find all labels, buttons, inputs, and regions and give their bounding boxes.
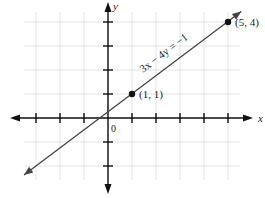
equation-label: 3x − 4y = −1 [137, 31, 190, 75]
y-axis-down-arrow-icon [105, 184, 112, 194]
point-marker [225, 19, 231, 25]
y-axis-label: y [112, 0, 118, 12]
coordinate-plane: (1, 1)(5, 4) 3x − 4y = −1 x y 0 [0, 0, 265, 198]
x-axis-label: x [257, 112, 263, 124]
point-label: (5, 4) [235, 16, 259, 29]
x-axis-left-arrow-icon [10, 115, 20, 122]
x-axis-right-arrow-icon [243, 115, 253, 122]
y-axis-up-arrow-icon [105, 2, 112, 12]
point-label: (1, 1) [139, 88, 163, 101]
line-arrow-down-left-icon [24, 167, 33, 175]
point-marker [129, 91, 135, 97]
origin-label: 0 [111, 123, 116, 134]
